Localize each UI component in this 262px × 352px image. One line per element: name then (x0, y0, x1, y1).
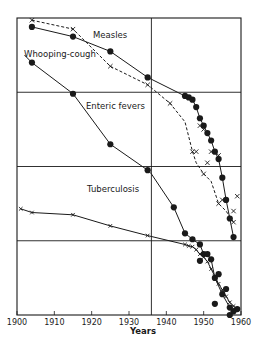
x-marker (231, 209, 235, 213)
x-marker (108, 64, 112, 68)
dot-marker (227, 215, 233, 221)
label-enteric-fevers: Enteric fevers (86, 101, 146, 111)
chart: Measles Whooping-cough Enteric fevers Tu… (0, 0, 262, 352)
dot-marker (70, 33, 76, 39)
label-tuberculosis: Tuberculosis (86, 184, 140, 194)
series-tuberculosis (19, 207, 239, 311)
dot-marker (201, 123, 207, 129)
dot-marker (197, 241, 203, 247)
dot-marker (29, 24, 35, 30)
x-tick-label: 1960 (231, 318, 251, 327)
dot-marker (107, 141, 113, 147)
x-marker (228, 301, 232, 305)
dot-marker (212, 149, 218, 155)
dot-marker (223, 197, 229, 203)
x-tick-label: 1950 (193, 318, 213, 327)
label-whooping-cough: Whooping-cough (24, 49, 96, 59)
x-marker (168, 101, 172, 105)
dot-marker (230, 308, 236, 314)
dot-marker (197, 115, 203, 121)
x-marker (194, 248, 198, 252)
x-axis-title: Years (129, 326, 156, 336)
dot-marker (107, 48, 113, 54)
series-layer (19, 18, 240, 318)
x-marker (206, 260, 210, 264)
x-tick-label: 1940 (156, 318, 176, 327)
x-tick-label: 1920 (81, 318, 101, 327)
x-marker (145, 83, 149, 87)
x-marker (194, 149, 198, 153)
chart-frame (17, 18, 241, 315)
dot-marker (212, 301, 218, 307)
x-tick-label: 1910 (44, 318, 64, 327)
dot-marker (189, 97, 195, 103)
dot-marker (193, 104, 199, 110)
series-line (25, 55, 238, 309)
x-marker (205, 161, 209, 165)
dot-marker (230, 234, 236, 240)
dot-marker (145, 74, 151, 80)
x-marker (235, 194, 239, 198)
dot-marker (29, 59, 35, 65)
x-marker (201, 172, 205, 176)
dot-marker (182, 230, 188, 236)
x-marker (190, 149, 194, 153)
x-tick-label: 1900 (7, 318, 27, 327)
dot-marker (208, 137, 214, 143)
dot-marker (204, 130, 210, 136)
dot-marker (219, 175, 225, 181)
dot-marker (216, 271, 222, 277)
dot-marker (189, 236, 195, 242)
dot-marker (171, 204, 177, 210)
series-line (21, 209, 238, 309)
x-marker (209, 267, 213, 271)
dot-marker (145, 167, 151, 173)
dot-marker (208, 256, 214, 262)
dot-marker (70, 91, 76, 97)
dot-marker (216, 156, 222, 162)
x-axis-ticks: 1900191019201930194019501960 (7, 311, 251, 327)
dot-marker (204, 251, 210, 257)
label-measles: Measles (93, 30, 128, 40)
x-marker (224, 295, 228, 299)
